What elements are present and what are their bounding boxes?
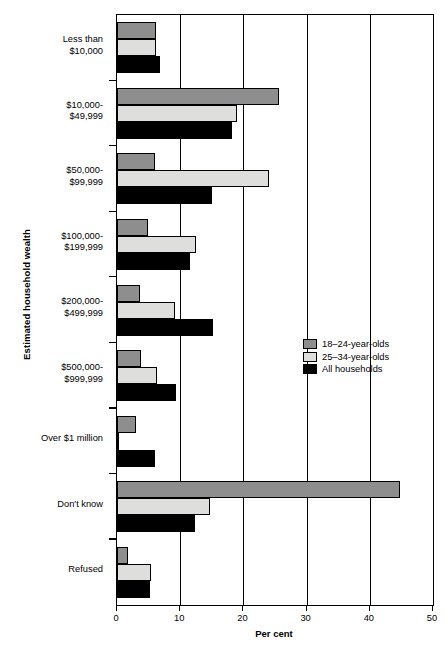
y-axis-tick (109, 276, 116, 277)
legend-item: 25–34-year-olds (303, 351, 389, 364)
x-axis-tick (432, 605, 433, 611)
x-axis-tick-label: 30 (286, 613, 326, 623)
bar (117, 219, 148, 236)
bar-chart: Estimated household wealth Less than $10… (0, 0, 447, 660)
y-axis-category-label: $10,000- $49,999 (66, 100, 103, 123)
bar (117, 319, 213, 336)
y-axis-tick (109, 211, 116, 212)
legend: 18–24-year-olds25–34-year-oldsAll househ… (303, 338, 389, 376)
bar (117, 39, 156, 56)
bar-group (117, 285, 433, 336)
bar (117, 547, 128, 564)
bar (117, 187, 212, 204)
bar (117, 170, 269, 187)
bar (117, 498, 210, 515)
bar (117, 22, 156, 39)
bar (117, 350, 141, 367)
y-axis-category-label: Don't know (57, 499, 103, 511)
bar (117, 56, 160, 73)
bar-group (117, 22, 433, 73)
bar (117, 285, 140, 302)
legend-swatch-icon (303, 339, 317, 349)
bar-group (117, 547, 433, 598)
bar (117, 88, 279, 105)
x-axis-tick (116, 605, 117, 611)
bar (117, 236, 196, 253)
y-axis-category-label: $100,000- $199,999 (61, 231, 103, 254)
x-axis-tick-label: 0 (96, 613, 136, 623)
legend-item: All households (303, 363, 389, 376)
x-axis-tick-label: 50 (412, 613, 447, 623)
bar (117, 515, 195, 532)
bar (117, 481, 400, 498)
legend-swatch-icon (303, 352, 317, 362)
bar (117, 105, 237, 122)
y-axis-category-labels: Less than $10,000$10,000- $49,999$50,000… (0, 14, 110, 604)
bar-group (117, 481, 433, 532)
bar (117, 416, 136, 433)
y-axis-tick (109, 473, 116, 474)
y-axis-category-label: $50,000- $99,999 (66, 165, 103, 188)
y-axis-tick (109, 145, 116, 146)
bar (117, 367, 157, 384)
y-axis-category-label: Over $1 million (41, 433, 103, 445)
x-axis-tick-label: 10 (159, 613, 199, 623)
bar (117, 384, 176, 401)
bar (117, 253, 190, 270)
x-axis-tick-label: 20 (222, 613, 262, 623)
x-axis-tick-label: 40 (349, 613, 389, 623)
x-axis-title: Per cent (116, 628, 432, 639)
bar-group (117, 153, 433, 204)
y-axis-category-label: $500,000- $999,999 (61, 362, 103, 385)
y-axis-category-label: Less than $10,000 (63, 34, 103, 57)
y-axis-category-label: Refused (68, 564, 103, 576)
y-axis-tick (109, 342, 116, 343)
bar (117, 302, 175, 319)
bar-group (117, 88, 433, 139)
bar (117, 581, 150, 598)
bar (117, 153, 155, 170)
y-axis-category-label: $200,000- $499,999 (61, 296, 103, 319)
bar-group (117, 416, 433, 467)
bar (117, 122, 232, 139)
x-axis-tick (179, 605, 180, 611)
x-axis-tick (306, 605, 307, 611)
bar (117, 433, 119, 450)
y-axis-tick (109, 538, 116, 539)
bar-group (117, 219, 433, 270)
legend-label: 18–24-year-olds (322, 338, 389, 351)
bar (117, 564, 151, 581)
legend-label: 25–34-year-olds (322, 351, 389, 364)
y-axis-tick (109, 407, 116, 408)
bar (117, 450, 155, 467)
x-axis-tick (369, 605, 370, 611)
y-axis-tick (109, 80, 116, 81)
legend-label: All households (322, 363, 382, 376)
x-axis-tick (242, 605, 243, 611)
legend-swatch-icon (303, 364, 317, 374)
legend-item: 18–24-year-olds (303, 338, 389, 351)
plot-area (116, 14, 434, 606)
